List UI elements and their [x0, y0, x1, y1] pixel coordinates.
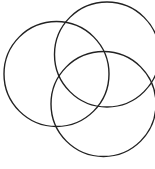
venn-diagram	[0, 0, 155, 169]
bottom-circle	[51, 52, 155, 157]
left-circle	[4, 22, 109, 127]
